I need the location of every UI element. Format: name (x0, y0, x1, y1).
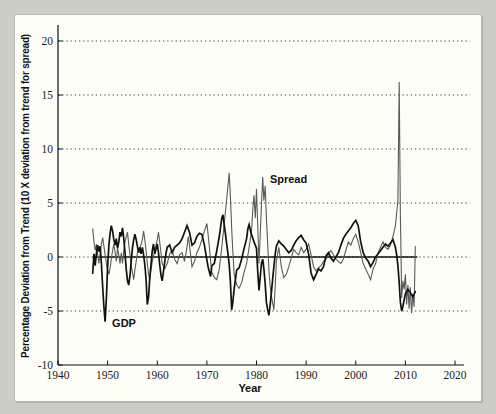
series-spread-line (93, 82, 416, 313)
y-tick-label: -10 (38, 359, 54, 371)
y-tick-label: 20 (42, 35, 54, 47)
x-tick-label: 2010 (394, 369, 417, 381)
chart: 1940195019601970198019902000201020202015… (0, 0, 496, 414)
spread-series-label: Spread (270, 173, 307, 185)
x-tick-label: 2000 (344, 369, 367, 381)
y-tick-label: 5 (47, 197, 53, 209)
x-tick-label: 2020 (444, 369, 467, 381)
series-gdp-line (93, 215, 416, 322)
y-tick-label: 15 (42, 89, 54, 101)
page-background: { "colors": { "outer_background": "#cbcd… (0, 0, 496, 414)
x-tick-label: 1950 (96, 369, 119, 381)
y-tick-label: -5 (43, 305, 53, 317)
x-axis-title: Year (238, 382, 261, 394)
x-tick-label: 1990 (295, 369, 318, 381)
x-tick-label: 1980 (245, 369, 268, 381)
x-tick-label: 1970 (195, 369, 218, 381)
x-tick-label: 1960 (146, 369, 169, 381)
y-axis-title: Percentage Deviation from Trend (10 X de… (20, 34, 31, 358)
y-tick-label: 0 (47, 251, 53, 263)
y-tick-label: 10 (42, 143, 54, 155)
gdp-series-label: GDP (112, 317, 136, 329)
